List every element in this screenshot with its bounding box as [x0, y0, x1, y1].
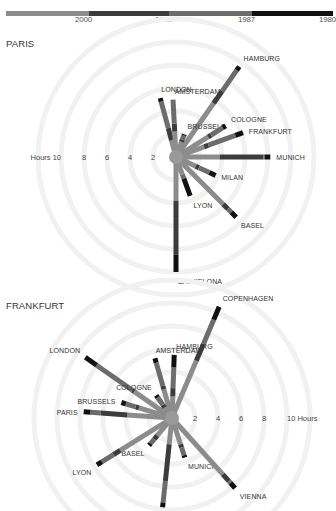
segment-1987	[102, 455, 114, 462]
segment-1987	[151, 439, 155, 443]
route-spoke-amsterdam	[173, 100, 176, 157]
segment-1995	[223, 204, 228, 209]
city-label: BASEL	[121, 450, 144, 457]
axis-tick-label: 4	[128, 153, 132, 162]
segment-1980	[223, 126, 226, 128]
segment-1995	[208, 135, 211, 137]
axis-tick-label: 6	[105, 153, 109, 162]
city-label: AMSTERDAM	[156, 347, 202, 354]
segment-1995	[168, 128, 171, 140]
segment-1995	[182, 140, 183, 142]
segment-1995	[196, 166, 199, 168]
segment-1980	[97, 462, 102, 465]
segment-1995	[223, 474, 229, 481]
segment-1980	[231, 483, 236, 488]
segment-1980	[209, 173, 215, 176]
segment-1980	[85, 357, 96, 365]
axis-tick-label: 2	[151, 153, 155, 162]
segment-1987	[173, 100, 174, 124]
segment-1987	[126, 404, 136, 407]
city-label: MILAN	[221, 174, 243, 181]
axis-tick-label: 4	[216, 414, 220, 423]
segment-1987	[182, 174, 184, 178]
radial-chart-paris: HAMBURGLONDONAMSTERDAMBRUSSELSCOLOGNEFRA…	[31, 19, 314, 295]
segment-1980	[231, 212, 236, 217]
city-label: MUNICH	[276, 154, 305, 161]
segment-1987	[91, 412, 101, 413]
segment-1980	[156, 395, 157, 397]
segment-1987	[199, 168, 210, 173]
segment-1980	[155, 358, 156, 362]
axis-tick-label: 10 Hours	[287, 414, 318, 423]
axis-tick-label: Hours 10	[31, 153, 61, 162]
axis-tick-label: 8	[82, 153, 86, 162]
segment-1987	[229, 481, 231, 483]
city-label: PARIS	[57, 409, 78, 416]
segment-1995	[101, 413, 127, 415]
city-label: BASEL	[241, 222, 264, 229]
axis-tick-label: 6	[239, 414, 243, 423]
segment-1995	[165, 444, 169, 481]
segment-1995	[204, 145, 208, 147]
city-label: FRANKFURT	[249, 128, 293, 135]
segment-1987	[163, 481, 165, 503]
hub	[165, 411, 179, 425]
city-label: LONDON	[50, 347, 81, 354]
segment-1980	[121, 403, 125, 404]
city-label: HAMBURG	[244, 55, 280, 62]
city-label: LYON	[73, 469, 92, 476]
segment-1995	[163, 386, 164, 389]
segment-1980	[184, 179, 190, 196]
segment-1995	[154, 436, 157, 440]
segment-1987	[228, 209, 231, 212]
segment-1980	[163, 503, 164, 508]
segment-1980	[237, 67, 240, 71]
segment-1987	[173, 367, 174, 388]
segment-1980	[235, 133, 243, 136]
city-label: VIENNA	[240, 493, 267, 500]
city-label: LYON	[194, 202, 213, 209]
city-label: COLOGNE	[116, 384, 152, 391]
segment-1987	[182, 135, 184, 139]
segment-1987	[161, 102, 168, 129]
city-label: BRUSSELS	[77, 398, 115, 405]
segment-1987	[182, 448, 185, 456]
route-spoke-hamburg	[172, 355, 174, 418]
segment-1995	[114, 450, 121, 454]
city-label: AMSTERDAM	[175, 88, 221, 95]
axis-tick-label: 8	[262, 414, 266, 423]
axis-tick-label: 2	[193, 414, 197, 423]
segment-1995	[136, 407, 139, 408]
city-label: COLOGNE	[231, 116, 267, 123]
segment-1980	[184, 455, 185, 457]
city-label: COPENHAGEN	[223, 295, 274, 302]
segment-1995	[163, 405, 165, 408]
radial-chart-frankfurt: COPENHAGENLONDONHAMBURGAMSTERDAMCOLOGNEB…	[34, 280, 318, 511]
hub	[169, 150, 183, 164]
segment-1980	[84, 412, 91, 413]
segment-1980	[149, 444, 151, 446]
segment-1995	[181, 444, 182, 447]
segment-1980	[160, 98, 161, 101]
segment-1987	[156, 363, 163, 386]
